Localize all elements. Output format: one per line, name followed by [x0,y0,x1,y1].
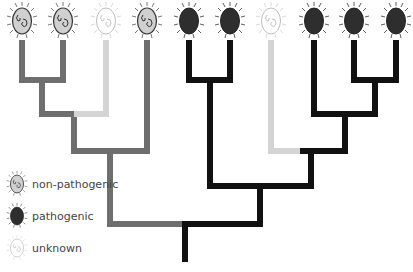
leaf-bacterium-icon [256,2,286,38]
leaf-bacterium-icon [48,2,78,38]
leaf-bacterium-icon [174,2,204,38]
bacterium-unknown-icon [6,233,28,263]
legend-item-non-pathogenic: non-pathogenic [6,168,118,200]
leaf-bacterium-icon [339,2,369,38]
legend-item-pathogenic: pathogenic [6,200,118,232]
leaf-bacterium-icon [132,2,162,38]
legend-label: unknown [32,242,82,255]
legend-label: non-pathogenic [32,178,118,191]
leaf-bacterium-icon [381,2,411,38]
legend-item-unknown: unknown [6,232,118,264]
leaf-bacterium-icon [299,2,329,38]
leaf-bacterium-icon [215,2,245,38]
bacterium-non-pathogenic-icon [6,169,28,199]
legend-label: pathogenic [32,210,94,223]
leaf-bacterium-icon [7,2,37,38]
bacterium-pathogenic-icon [6,201,28,231]
legend: non-pathogenic pathogenic unknown [6,168,118,264]
leaf-bacterium-icon [91,2,121,38]
